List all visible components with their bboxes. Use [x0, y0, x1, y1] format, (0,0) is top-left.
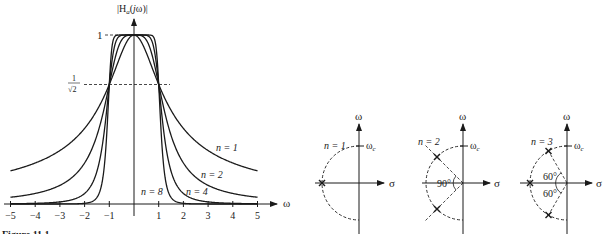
angle-label-upper: 60°	[543, 171, 557, 182]
omega-axis-label: ω	[563, 110, 570, 122]
sigma-axis-label: σ	[389, 177, 395, 189]
pole-diagram-n3: ω σ ωc n = 3 60° 60°	[520, 110, 602, 234]
butterworth-figure: ω |Ha(jω)| 1 1 √2 −5−4−3−2−112345 n = 1 …	[0, 0, 605, 234]
pole-diagram-n2: ω σ ωc n = 2 90°	[418, 110, 500, 234]
pole-marker	[434, 206, 440, 212]
x-tick-label: −5	[5, 210, 16, 221]
unity-level-label: 1	[97, 29, 103, 41]
angle-label-lower: 60°	[543, 188, 557, 199]
x-axis-label: ω	[283, 197, 290, 209]
order-label: n = 3	[531, 136, 553, 147]
cutoff-label: ωc	[366, 140, 377, 153]
omega-axis-label: ω	[459, 110, 466, 122]
cutoff-label: ωc	[574, 140, 585, 153]
x-tick-label: 4	[230, 210, 235, 221]
angle-label: 90°	[437, 178, 451, 189]
x-tick-label: −2	[79, 210, 90, 221]
svg-text:1: 1	[72, 74, 76, 83]
x-tick-label: −3	[55, 210, 66, 221]
curve-label-n2: n = 2	[201, 169, 223, 180]
figure-caption: Figure 11.1	[2, 229, 50, 234]
magnitude-plot: ω |Ha(jω)| 1 1 √2 −5−4−3−2−112345 n = 1 …	[4, 3, 290, 221]
x-tick-label: 5	[255, 210, 260, 221]
x-tick-label: −1	[104, 210, 115, 221]
sigma-axis-label: σ	[596, 177, 602, 189]
omega-axis-label: ω	[355, 110, 362, 122]
x-tick-label: 2	[181, 210, 186, 221]
curve-label-n4: n = 4	[186, 186, 208, 197]
y-axis-label: |Ha(jω)|	[117, 3, 148, 16]
sigma-axis-label: σ	[494, 177, 500, 189]
svg-text:√2: √2	[68, 85, 76, 94]
pole-marker	[546, 212, 552, 218]
pole-diagram-n1: ω σ ωc n = 1	[315, 110, 395, 234]
order-label: n = 2	[418, 136, 440, 147]
pole-marker	[434, 154, 440, 160]
x-tick-label: 1	[156, 210, 161, 221]
x-tick-label: −4	[30, 210, 41, 221]
x-tick-label: 3	[206, 210, 211, 221]
cutoff-label: ωc	[470, 140, 481, 153]
curve-label-n8: n = 8	[141, 186, 163, 197]
curve-label-n1: n = 1	[216, 142, 238, 153]
order-label: n = 1	[324, 140, 346, 151]
half-power-label: 1 √2	[68, 74, 80, 94]
pole-marker	[546, 148, 552, 154]
